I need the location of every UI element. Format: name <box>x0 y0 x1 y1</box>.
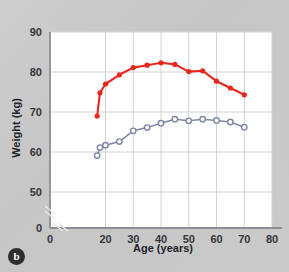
data-point <box>158 60 163 65</box>
data-point <box>117 139 122 144</box>
x-tick-label: 20 <box>99 233 111 245</box>
data-point <box>131 65 136 70</box>
x-tick-label: 70 <box>238 233 250 245</box>
data-point <box>117 72 122 77</box>
data-point <box>214 79 219 84</box>
data-point <box>145 63 150 68</box>
y-tick-label: 50 <box>30 186 42 198</box>
x-tick-label: 60 <box>210 233 222 245</box>
data-point <box>103 81 108 86</box>
x-tick-label: 80 <box>266 233 278 245</box>
data-point <box>242 125 247 130</box>
data-point <box>200 68 205 73</box>
data-point <box>186 118 191 123</box>
data-point <box>228 119 233 124</box>
data-point <box>186 69 191 74</box>
figure-panel: 020304050607080 05060708090 Age (years) … <box>0 0 289 272</box>
data-point <box>242 92 247 97</box>
data-point <box>97 90 102 95</box>
y-tick-label: 60 <box>30 146 42 158</box>
y-axis-tick-labels: 05060708090 <box>30 26 42 234</box>
y-tick-label: 70 <box>30 106 42 118</box>
weight-by-age-chart: 020304050607080 05060708090 Age (years) … <box>0 0 289 272</box>
data-point <box>94 153 99 158</box>
data-point <box>97 145 102 150</box>
y-axis-title: Weight (kg) <box>10 98 22 158</box>
data-point <box>103 143 108 148</box>
data-point <box>95 113 100 118</box>
data-point <box>228 85 233 90</box>
data-point <box>158 121 163 126</box>
y-tick-label: 0 <box>36 222 42 234</box>
data-point <box>131 128 136 133</box>
data-point <box>172 117 177 122</box>
data-point <box>172 62 177 67</box>
data-point <box>144 125 149 130</box>
panel-label-b: b <box>8 248 25 265</box>
data-point <box>214 118 219 123</box>
x-tick-label: 0 <box>47 233 53 245</box>
y-tick-label: 90 <box>30 26 42 38</box>
data-point <box>200 117 205 122</box>
x-axis-title: Age (years) <box>133 242 193 254</box>
y-tick-label: 80 <box>30 66 42 78</box>
